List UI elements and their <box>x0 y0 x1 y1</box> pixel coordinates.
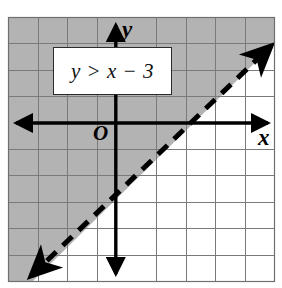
y-axis-label: y <box>122 18 132 41</box>
inequality-text: y > x − 3 <box>71 59 154 84</box>
coordinate-plane-svg <box>0 0 282 288</box>
x-axis-label: x <box>258 126 270 149</box>
inequality-graph-figure: y x O y > x − 3 <box>0 0 282 288</box>
inequality-label-box: y > x − 3 <box>53 47 172 95</box>
origin-label: O <box>93 123 108 144</box>
